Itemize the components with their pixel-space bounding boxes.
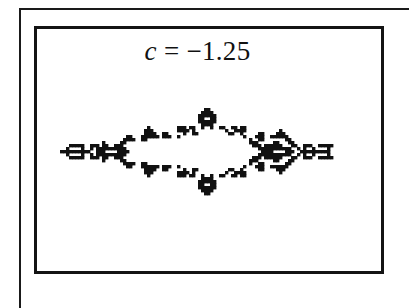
julia-set-fractal [0, 0, 395, 289]
